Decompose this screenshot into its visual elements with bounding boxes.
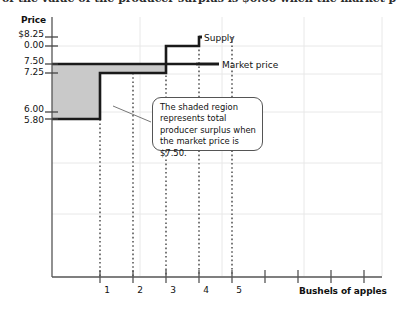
producer-surplus-callout: The shaded region represents total produ…: [152, 97, 263, 151]
market-price-curve-label: Market price: [222, 60, 278, 70]
supply-curve-label: Supply: [204, 33, 235, 43]
producer-surplus-chart: of the value of the producer surplus is …: [0, 0, 399, 324]
callout-leader-line: [113, 106, 151, 122]
plot-area: [0, 0, 399, 324]
callout-text: The shaded region represents total produ…: [160, 102, 260, 159]
